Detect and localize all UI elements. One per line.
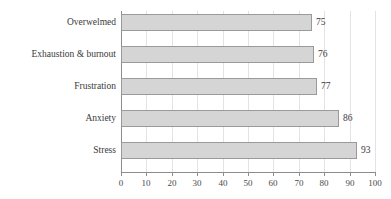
x-tick-mark — [146, 172, 147, 176]
x-tick-mark — [248, 172, 249, 176]
x-tick-mark — [350, 172, 351, 176]
category-label-exhaustion-burnout: Exhaustion & burnout — [32, 49, 116, 60]
x-tick-label-50: 50 — [244, 178, 253, 189]
category-label-overwelmed: Overwelmed — [67, 17, 116, 28]
value-label-exhaustion-burnout: 76 — [318, 49, 328, 60]
x-tick-label-80: 80 — [320, 178, 329, 189]
category-label-stress: Stress — [93, 145, 116, 156]
category-label-anxiety: Anxiety — [85, 113, 116, 124]
x-tick-label-10: 10 — [142, 178, 151, 189]
category-axis-labels: Overwelmed Exhaustion & burnout Frustrat… — [0, 0, 116, 199]
x-tick-mark — [324, 172, 325, 176]
x-tick-mark — [197, 172, 198, 176]
x-tick-label-70: 70 — [295, 178, 304, 189]
bar-overwelmed[interactable] — [121, 14, 312, 31]
value-label-anxiety: 86 — [343, 113, 353, 124]
bar-stress[interactable] — [121, 142, 357, 159]
bar-chart: Overwelmed Exhaustion & burnout Frustrat… — [0, 0, 391, 199]
x-tick-mark — [299, 172, 300, 176]
value-label-frustration: 77 — [321, 81, 331, 92]
x-tick-label-40: 40 — [219, 178, 228, 189]
x-tick-label-90: 90 — [346, 178, 355, 189]
x-tick-mark — [375, 172, 376, 176]
x-tick-mark — [223, 172, 224, 176]
x-tick-label-60: 60 — [269, 178, 278, 189]
x-tick-label-100: 100 — [368, 178, 382, 189]
bar-frustration[interactable] — [121, 78, 317, 95]
x-tick-mark — [172, 172, 173, 176]
x-tick-label-30: 30 — [193, 178, 202, 189]
gridline — [375, 11, 376, 172]
bar-anxiety[interactable] — [121, 110, 339, 127]
x-tick-label-20: 20 — [168, 178, 177, 189]
x-tick-label-0: 0 — [119, 178, 124, 189]
bar-exhaustion-burnout[interactable] — [121, 46, 314, 63]
category-label-frustration: Frustration — [74, 81, 116, 92]
x-tick-mark — [273, 172, 274, 176]
value-label-overwelmed: 75 — [316, 17, 326, 28]
value-label-stress: 93 — [361, 145, 371, 156]
x-tick-mark — [121, 172, 122, 176]
